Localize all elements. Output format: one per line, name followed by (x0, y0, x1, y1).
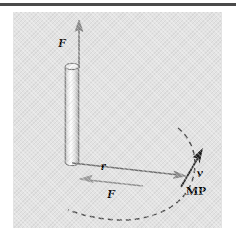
arrow-left-icon (80, 175, 144, 186)
diagram-panel: F r F v MP (13, 12, 222, 228)
label-radius: r (101, 159, 106, 172)
label-point-mp: MP (186, 184, 206, 197)
label-velocity: v (197, 166, 203, 179)
figure-root: F r F v MP (0, 0, 236, 243)
label-force-top: F (58, 36, 67, 49)
page-top-rule (0, 3, 236, 6)
cylinder-rod-icon (65, 63, 79, 165)
label-force-horizontal: F (107, 187, 116, 200)
arrow-up-icon (75, 20, 83, 68)
